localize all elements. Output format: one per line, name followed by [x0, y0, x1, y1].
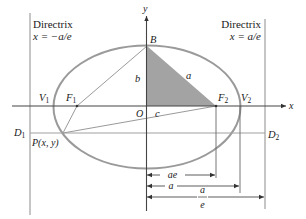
dim-a-over-e-denominator: e — [200, 199, 205, 210]
d2-label: D2 — [267, 129, 280, 142]
shaded-triangle — [147, 46, 216, 106]
focus-f2-dot — [215, 105, 218, 108]
point-p-label: P(x, y) — [31, 137, 59, 149]
directrix-left-equation: x = −a/e — [32, 30, 72, 42]
d1-label: D1 — [13, 127, 26, 140]
dim-a-label: a — [169, 180, 174, 191]
dim-ae-label: ae — [168, 169, 178, 180]
pf1-line — [63, 106, 77, 133]
focus-f2-label: F2 — [217, 92, 228, 105]
ellipse-directrix-diagram: Directrix x = −a/e Directrix x = a/e y x… — [0, 0, 306, 219]
focus-f1-dot — [76, 105, 79, 108]
origin-label: O — [136, 108, 143, 119]
x-axis-label: x — [288, 100, 294, 111]
vertex-v1-label: V1 — [39, 92, 49, 105]
side-b-label: b — [135, 73, 140, 84]
focus-f1-label: F1 — [65, 92, 76, 105]
y-axis-label: y — [142, 3, 148, 14]
directrix-right-equation: x = a/e — [229, 30, 261, 42]
dim-a-over-e-numerator: a — [200, 184, 205, 195]
vertex-v2-label: V2 — [241, 92, 251, 105]
point-b-label: B — [150, 34, 157, 45]
side-c-label: c — [155, 108, 160, 119]
directrix-left-title: Directrix — [33, 18, 73, 30]
directrix-right-title: Directrix — [221, 18, 261, 30]
side-a-label: a — [186, 70, 191, 81]
